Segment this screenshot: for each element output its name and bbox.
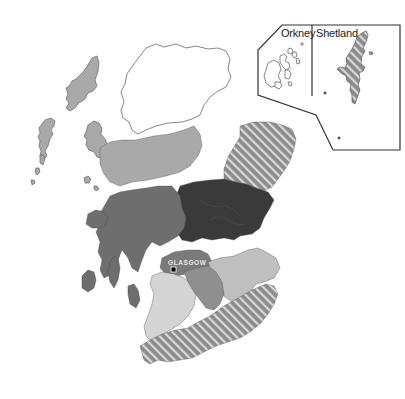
region-central-highlands <box>100 126 202 186</box>
shetland-label: Shetland <box>316 27 358 39</box>
western-isles <box>31 56 99 185</box>
region-grampian <box>224 122 296 191</box>
orkney-label: Orkney <box>281 27 315 39</box>
glasgow-marker <box>171 267 176 272</box>
glasgow-label: GLASGOW <box>168 259 207 266</box>
scotland-regional-map: Orkney Shetland GLASGOW <box>0 0 405 399</box>
map-canvas <box>0 0 405 399</box>
region-highlands-north <box>121 44 231 134</box>
